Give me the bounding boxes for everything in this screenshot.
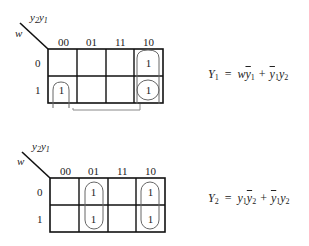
row-header: 0 <box>37 187 43 198</box>
col-header: 01 <box>86 37 97 48</box>
row-header: 0 <box>35 58 41 69</box>
col-vars-label: y2y1 <box>32 141 50 155</box>
cell-r0-c10: 1 <box>134 58 163 69</box>
equation-y2: Y2 = y1y2 + y1y2 <box>208 191 290 209</box>
col-header: 11 <box>115 37 126 48</box>
col-header: 11 <box>117 166 128 177</box>
cell-r1-c01: 1 <box>79 214 108 225</box>
cell-r1-c10: 1 <box>134 85 163 96</box>
equation-y1: Y1 = wy1 + y1y2 <box>208 67 288 85</box>
cell-r0-c10: 1 <box>136 187 165 198</box>
cell-r1-c00: 1 <box>47 85 76 96</box>
row-var-label: w <box>15 28 22 39</box>
row-var-label: w <box>17 156 24 167</box>
kmap-y2: y2y1 w 00 01 11 10 0 1 1 1 1 1 Y2 = y1y2… <box>0 123 309 246</box>
corner-diagonal <box>20 23 48 49</box>
col-header: 10 <box>143 37 154 48</box>
row-header: 1 <box>35 85 41 96</box>
col-header: 00 <box>58 37 69 48</box>
col-vars-label: y2y1 <box>30 12 48 26</box>
group-wrap-connector <box>73 104 140 110</box>
corner-diagonal <box>22 152 50 178</box>
cell-r1-c10: 1 <box>136 214 165 225</box>
col-header: 01 <box>88 166 99 177</box>
kmap-y1: y2y1 w 00 01 11 10 0 1 1 1 1 Y1 = wy1 + … <box>0 0 309 123</box>
row-header: 1 <box>37 214 43 225</box>
col-header: 10 <box>145 166 156 177</box>
col-header: 00 <box>60 166 71 177</box>
cell-r0-c01: 1 <box>79 187 108 198</box>
